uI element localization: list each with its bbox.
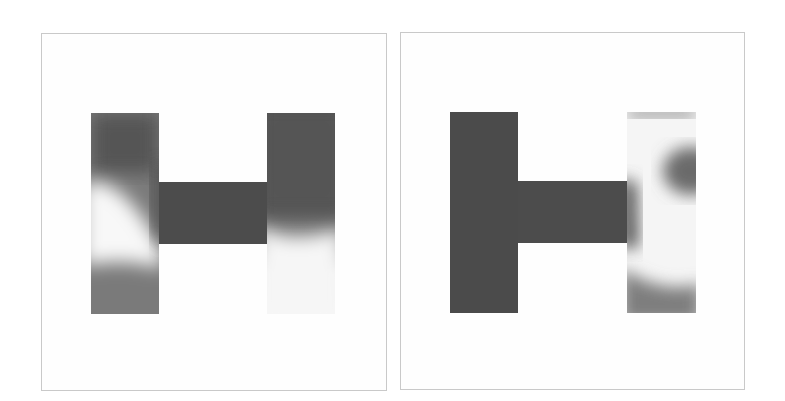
right-field-plot-panel (400, 32, 745, 390)
left-bar (450, 112, 518, 313)
crossbar (518, 181, 627, 243)
left-h-shape-plot (42, 34, 388, 392)
right-bar (257, 104, 347, 334)
right-bar (619, 109, 719, 323)
left-bar (82, 113, 167, 314)
crossbar (159, 182, 267, 244)
right-h-shape-plot (401, 33, 746, 391)
left-field-plot-panel (41, 33, 387, 391)
